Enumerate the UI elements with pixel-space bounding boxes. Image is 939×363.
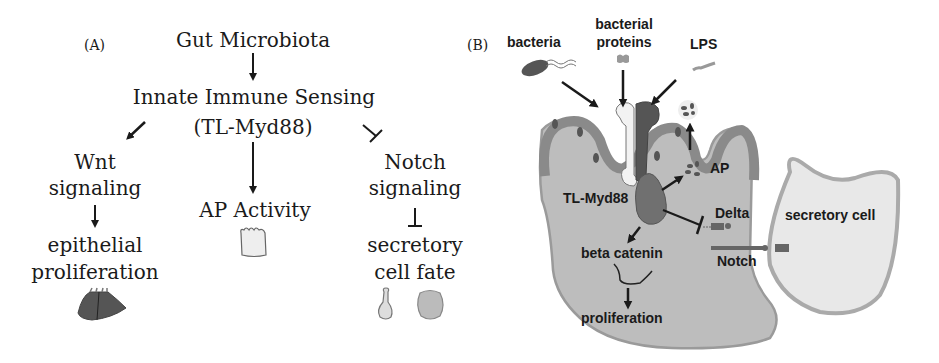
secretory-cell [769,159,898,313]
beta-catenin-label: beta catenin [581,245,663,261]
ap-vesicle-top [678,100,698,120]
delta-label: Delta [715,205,749,221]
panel-b-label: (B) [467,37,488,53]
lps-icon [693,63,715,70]
notch-receptor-label: Notch [717,253,757,269]
bacteria-icon [519,57,576,80]
bacteria-label: bacteria [507,34,561,50]
tl-myd88-receptor-label: TL-Myd88 [563,190,628,206]
lps-label: LPS [690,36,717,52]
ap-label: AP [710,160,729,176]
arrow-bacteria-in [562,82,595,105]
bacterial-proteins-icon [617,55,629,64]
bacterial-label: bacterial [593,16,655,32]
proteins-label: proteins [593,34,655,50]
secretory-cell-label: secretory cell [785,207,875,223]
panel-b-graphics [0,0,939,363]
proliferation-outcome-label: proliferation [581,310,663,326]
arrow-lps-in [654,80,676,102]
